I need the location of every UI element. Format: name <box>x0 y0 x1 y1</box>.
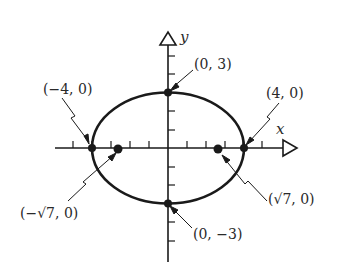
y-axis <box>160 32 176 262</box>
focus-right-point <box>214 145 223 154</box>
x-axis-arrow-icon <box>283 140 297 156</box>
label-focus-left: (−√7, 0) <box>20 205 78 221</box>
vertex-right-point <box>240 144 248 152</box>
y-axis-arrow-icon <box>160 32 176 45</box>
label-vertex-right: (4, 0) <box>266 85 304 101</box>
label-covertex-top: (0, 3) <box>194 56 232 72</box>
y-axis-label: y <box>179 28 189 46</box>
ellipse-diagram: y x (−4, 0) (4, 0) (0, 3) (0, −3) (−√ <box>0 0 339 265</box>
focus-left-point <box>114 145 123 154</box>
label-covertex-bottom: (0, −3) <box>193 226 242 242</box>
label-focus-right: (√7, 0) <box>268 191 315 207</box>
x-axis-label: x <box>276 120 285 138</box>
vertex-left-point <box>88 144 96 152</box>
label-vertex-left: (−4, 0) <box>43 81 92 97</box>
